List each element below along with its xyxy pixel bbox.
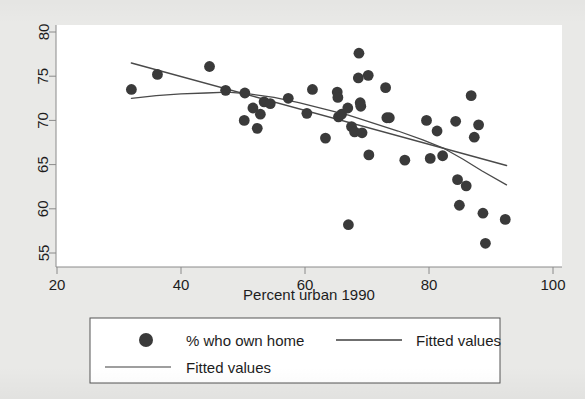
y-tick-label: 65	[35, 156, 52, 173]
y-tick-label: 60	[35, 200, 52, 217]
scatter-point	[380, 82, 391, 93]
scatter-point	[469, 132, 480, 143]
scatter-point	[421, 115, 432, 126]
legend: % who own home Fitted values Fitted valu…	[90, 318, 501, 383]
scatter-point	[307, 84, 318, 95]
plot-area	[56, 25, 562, 267]
scatter-point	[452, 174, 463, 185]
scatter-point	[461, 180, 472, 191]
scatter-point	[432, 126, 443, 137]
x-tick-label: 80	[421, 276, 438, 293]
legend-item-label-fitted-lowess: Fitted values	[186, 359, 271, 376]
x-tick-label: 40	[173, 276, 190, 293]
scatter-point	[363, 149, 374, 160]
y-tick-label: 70	[35, 112, 52, 129]
scatter-point	[466, 90, 477, 101]
x-axis-ticks	[57, 267, 553, 274]
scatter-point	[355, 101, 366, 112]
scatter-point	[437, 150, 448, 161]
scatter-point	[357, 127, 368, 138]
legend-box	[90, 318, 500, 383]
scatter-point	[450, 116, 461, 127]
scatter-point	[363, 70, 374, 81]
y-axis-tick-labels: 556065707580	[35, 24, 52, 262]
legend-item-label-own-home: % who own home	[186, 332, 304, 349]
scatter-point	[354, 48, 365, 59]
scatter-point	[399, 155, 410, 166]
scatter-point	[332, 92, 343, 103]
scatter-point	[353, 73, 364, 84]
scatter-point	[265, 98, 276, 109]
x-tick-label: 20	[49, 276, 66, 293]
scatter-point	[320, 133, 331, 144]
y-tick-label: 80	[35, 24, 52, 41]
legend-marker-dot	[139, 333, 153, 347]
scatter-point	[384, 112, 395, 123]
scatter-point	[343, 219, 354, 230]
scatter-point	[478, 208, 489, 219]
y-axis-ticks	[49, 32, 56, 253]
scatter-point	[220, 85, 231, 96]
scatter-point	[126, 84, 137, 95]
scatter-point	[152, 69, 163, 80]
scatter-point	[239, 115, 250, 126]
x-tick-label: 100	[540, 276, 565, 293]
scatter-plot-chart: 556065707580 20406080100 Percent urban 1…	[0, 0, 585, 399]
y-tick-label: 75	[35, 68, 52, 85]
scatter-point	[239, 88, 250, 99]
scatter-point	[480, 238, 491, 249]
figure-container: 556065707580 20406080100 Percent urban 1…	[0, 0, 585, 399]
scatter-point	[301, 108, 312, 119]
scatter-point	[473, 119, 484, 130]
scatter-point	[283, 93, 294, 104]
scatter-point	[454, 200, 465, 211]
scatter-point	[500, 214, 511, 225]
scatter-point	[425, 153, 436, 164]
scatter-point	[255, 109, 266, 120]
y-tick-label: 55	[35, 245, 52, 262]
legend-item-label-fitted-linear: Fitted values	[416, 332, 501, 349]
scatter-point	[342, 103, 353, 114]
scatter-point	[204, 61, 215, 72]
scatter-point	[252, 123, 263, 134]
x-axis-title: Percent urban 1990	[243, 286, 375, 303]
